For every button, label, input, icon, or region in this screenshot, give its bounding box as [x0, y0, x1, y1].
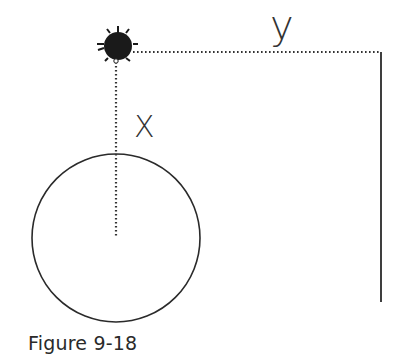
- x-label: X: [134, 109, 155, 144]
- y-label: y: [270, 2, 294, 48]
- figure-diagram: [0, 0, 402, 362]
- figure-caption: Figure 9-18: [28, 332, 137, 354]
- mass-blob-icon: [97, 26, 138, 63]
